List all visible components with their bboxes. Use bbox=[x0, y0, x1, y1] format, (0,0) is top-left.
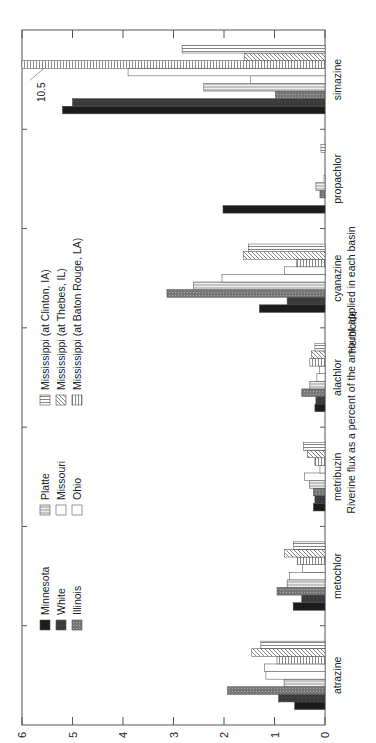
x-axis-label: Herbicide bbox=[347, 310, 358, 353]
bar bbox=[251, 76, 325, 84]
bar bbox=[302, 595, 325, 603]
bar bbox=[167, 290, 325, 298]
legend-swatch bbox=[72, 395, 82, 405]
bar bbox=[284, 679, 325, 687]
bar bbox=[243, 252, 325, 260]
bar bbox=[266, 672, 325, 680]
category-label: atrazine bbox=[331, 657, 343, 695]
bar bbox=[315, 458, 325, 466]
bar bbox=[204, 83, 325, 91]
bar bbox=[285, 267, 325, 275]
bar bbox=[309, 481, 325, 489]
y-tick-label: 6 bbox=[16, 732, 28, 738]
bar bbox=[290, 572, 325, 580]
bar bbox=[259, 305, 325, 313]
bar bbox=[297, 557, 325, 565]
bar bbox=[316, 183, 325, 191]
bar bbox=[128, 68, 325, 76]
bar bbox=[261, 641, 325, 649]
legend-swatch bbox=[56, 395, 66, 405]
bar bbox=[313, 488, 325, 496]
bar bbox=[310, 359, 325, 367]
y-tick-label: 2 bbox=[218, 732, 230, 738]
bar bbox=[315, 404, 325, 412]
legend-label: Mississippi (at Baton Rouge, LA) bbox=[71, 238, 83, 390]
y-tick-label: 1 bbox=[269, 732, 281, 738]
category-label: alachlor bbox=[331, 359, 343, 396]
bar bbox=[311, 351, 325, 359]
bar bbox=[315, 343, 325, 351]
y-axis-label: Riverine flux as a percent of the amount… bbox=[345, 226, 357, 513]
bar bbox=[182, 45, 325, 53]
category-label: metribuzin bbox=[331, 452, 343, 501]
legend-label: Ohio bbox=[71, 478, 83, 500]
bar bbox=[285, 549, 325, 557]
legend-label: Mississippi (at Clinton, IA) bbox=[39, 269, 51, 390]
legend-label: Minnesota bbox=[39, 566, 51, 615]
bar bbox=[62, 106, 325, 114]
plot-frame bbox=[22, 30, 325, 725]
bar bbox=[222, 274, 325, 282]
bar bbox=[22, 61, 325, 69]
bar bbox=[324, 175, 325, 183]
category-label: cyanazine bbox=[331, 254, 343, 301]
y-tick-label: 5 bbox=[67, 732, 79, 738]
bar bbox=[295, 702, 325, 710]
bar bbox=[303, 443, 325, 451]
bar bbox=[302, 389, 325, 397]
bar bbox=[316, 397, 325, 405]
bar bbox=[294, 542, 325, 550]
bar bbox=[302, 565, 325, 573]
legend-label: Mississippi (at Thebes, IL) bbox=[55, 268, 67, 390]
bar bbox=[277, 656, 325, 664]
bar bbox=[313, 503, 325, 511]
bar bbox=[223, 206, 325, 214]
bar bbox=[287, 297, 325, 305]
bar bbox=[248, 244, 325, 252]
legend-label: Missouri bbox=[55, 461, 67, 500]
bar bbox=[320, 190, 325, 198]
bar bbox=[304, 473, 325, 481]
bar bbox=[244, 53, 325, 61]
legend-swatch bbox=[72, 505, 82, 515]
bar bbox=[307, 450, 325, 458]
bar bbox=[293, 603, 325, 611]
legend-swatch bbox=[40, 395, 50, 405]
bar bbox=[287, 580, 325, 588]
category-label: propachlor bbox=[331, 154, 343, 204]
y-tick-label: 4 bbox=[117, 732, 129, 738]
bar bbox=[310, 381, 325, 389]
herbicide-flux-chart: 0123456atrazinemetochlormetribuzinalachl… bbox=[0, 0, 376, 743]
bar bbox=[321, 145, 325, 153]
legend-label: White bbox=[55, 588, 67, 615]
legend: MinnesotaWhiteIllinoisPlatteMissouriOhio… bbox=[39, 238, 83, 630]
bar bbox=[315, 496, 325, 504]
category-label: simazine bbox=[331, 59, 343, 101]
bar bbox=[264, 664, 325, 672]
category-label: metochlor bbox=[331, 553, 343, 600]
legend-swatch bbox=[72, 620, 82, 630]
legend-label: Illinois bbox=[71, 586, 83, 615]
legend-label: Platte bbox=[39, 473, 51, 500]
bar bbox=[320, 465, 325, 473]
bar bbox=[194, 282, 325, 290]
y-tick-label: 0 bbox=[319, 732, 331, 738]
bar bbox=[296, 259, 325, 267]
legend-swatch bbox=[56, 620, 66, 630]
legend-swatch bbox=[40, 505, 50, 515]
y-tick-label: 3 bbox=[168, 732, 180, 738]
annotation-label: 10.5 bbox=[36, 82, 47, 102]
bar bbox=[73, 99, 326, 107]
bar bbox=[277, 587, 325, 595]
legend-swatch bbox=[40, 620, 50, 630]
bar bbox=[317, 374, 325, 382]
bar bbox=[276, 91, 325, 99]
bar bbox=[319, 366, 325, 374]
bar bbox=[279, 694, 325, 702]
legend-swatch bbox=[56, 505, 66, 515]
bar bbox=[252, 649, 325, 657]
bar bbox=[228, 687, 325, 695]
